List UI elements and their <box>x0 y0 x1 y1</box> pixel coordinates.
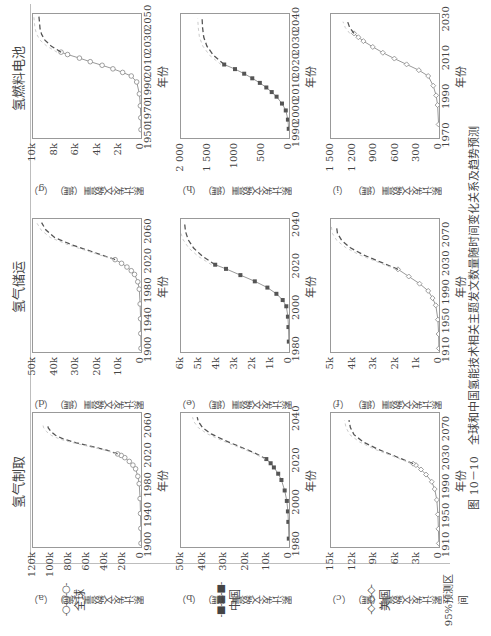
y-tick-label: 3k <box>368 357 378 393</box>
y-tick-label: 300 <box>411 143 421 179</box>
column-title-production: 氢气制取 <box>8 412 27 552</box>
y-axis-label: 累计发文数量（篇） <box>352 591 442 606</box>
x-tick-label: 2040 <box>290 208 301 240</box>
x-tick-label: 1990 <box>440 80 451 112</box>
x-tick-label: 2040 <box>290 4 301 36</box>
y-axis-label: 累计发文数量（篇） <box>54 396 144 411</box>
y-tick-label: 120k <box>27 552 37 588</box>
y-tick-label: 50k <box>175 552 185 588</box>
x-tick-label: 2060 <box>142 215 153 247</box>
x-tick-label: 1910 <box>440 528 451 560</box>
y-tick-label: 4k <box>92 143 102 179</box>
x-tick-label: 2030 <box>440 441 451 473</box>
x-tick-label: 2020 <box>142 245 153 277</box>
y-axis-label: 累计发文数量（篇） <box>202 396 292 411</box>
y-tick-label: 6k <box>70 143 80 179</box>
y-tick-label: 5k <box>325 357 335 393</box>
panel-label: （i） <box>326 182 349 197</box>
y-tick-label: 3k <box>411 552 421 588</box>
y-tick-label: 6k <box>390 552 400 588</box>
y-tick-label: 600 <box>390 143 400 179</box>
x-tick-label: 1900 <box>142 333 153 365</box>
figure-canvas: 氢气制取 氢气储运 氢燃料电池 -○-○-○- 全球 -■-■-■- 中国 -◇… <box>0 0 491 636</box>
y-axis-label: 累计发文数量（篇） <box>352 182 442 197</box>
x-tick-label: 1940 <box>142 499 153 531</box>
y-tick-label: 5k <box>193 357 203 393</box>
y-tick-label: 60k <box>81 552 91 588</box>
y-tick-label: 1k <box>411 357 421 393</box>
column-title-storage: 氢气储运 <box>8 217 27 357</box>
x-tick-label: 2000 <box>290 486 301 518</box>
y-tick-label: 40k <box>49 357 59 393</box>
y-tick-label: 100k <box>45 552 55 588</box>
plot-area <box>180 218 290 353</box>
plot-area <box>330 218 440 353</box>
x-axis-label: 年份 <box>302 257 318 317</box>
y-tick-label: 2 000 <box>175 143 185 179</box>
y-tick-label: 30k <box>218 552 228 588</box>
plot-area <box>32 13 142 139</box>
x-tick-label: 1980 <box>142 469 153 501</box>
x-tick-label: 2010 <box>440 42 451 74</box>
y-tick-label: 10k <box>261 552 271 588</box>
panel-label: （h） <box>176 182 202 197</box>
y-tick-label: 4k <box>211 357 221 393</box>
panel-label: （f） <box>326 396 350 411</box>
y-tick-label: 40k <box>197 552 207 588</box>
y-tick-label: 2k <box>113 143 123 179</box>
x-tick-label: 1900 <box>142 528 153 560</box>
x-tick-label: 1950 <box>440 499 451 531</box>
y-tick-label: 10k <box>27 143 37 179</box>
x-tick-label: 1980 <box>142 274 153 306</box>
plot-area <box>180 412 290 548</box>
y-tick-label: 15k <box>325 552 335 588</box>
plot-area <box>330 412 440 548</box>
x-tick-label: 2030 <box>440 247 451 279</box>
x-tick-label: 2020 <box>290 250 301 282</box>
y-tick-label: 2k <box>390 357 400 393</box>
y-tick-label: 20k <box>240 552 250 588</box>
y-tick-label: 20k <box>117 552 127 588</box>
plot-area <box>180 13 290 139</box>
panel-label: （a） <box>28 591 54 606</box>
x-tick-label: 1910 <box>440 333 451 365</box>
x-tick-label: 2070 <box>440 218 451 250</box>
plot-area <box>330 13 440 139</box>
y-tick-label: 20k <box>92 357 102 393</box>
x-tick-label: 1950 <box>440 305 451 337</box>
y-tick-label: 50k <box>27 357 37 393</box>
y-tick-label: 3k <box>229 357 239 393</box>
y-tick-label: 1 200 <box>347 143 357 179</box>
y-tick-label: 1 500 <box>325 143 335 179</box>
x-tick-label: 1940 <box>142 304 153 336</box>
x-tick-label: 1990 <box>440 470 451 502</box>
y-tick-label: 500 <box>256 143 266 179</box>
frame-top <box>30 4 31 564</box>
plot-area <box>32 412 142 548</box>
y-axis-label: 累计发文数量（篇） <box>54 591 144 606</box>
y-axis-label: 累计发文数量（篇） <box>352 396 442 411</box>
panel-label: （b） <box>176 591 202 606</box>
x-tick-label: 2000 <box>290 291 301 323</box>
x-tick-label: 2020 <box>290 444 301 476</box>
y-axis-label: 累计发文数量（篇） <box>202 182 292 197</box>
y-tick-label: 6k <box>175 357 185 393</box>
plot-area <box>32 218 142 353</box>
x-tick-label: 1990 <box>440 276 451 308</box>
x-tick-label: 2070 <box>440 413 451 445</box>
column-title-fuel-cell: 氢燃料电池 <box>8 8 27 148</box>
y-tick-label: 900 <box>368 143 378 179</box>
y-tick-label: 12k <box>347 552 357 588</box>
y-axis-label: 累计发文数量（篇） <box>202 591 292 606</box>
panel-label: （g） <box>28 182 54 197</box>
y-tick-label: 8k <box>49 143 59 179</box>
x-tick-label: 1970 <box>440 119 451 151</box>
y-tick-label: 1k <box>265 357 275 393</box>
x-tick-label: 2030 <box>440 3 451 35</box>
y-tick-label: 40k <box>99 552 109 588</box>
x-axis-label: 年份 <box>154 47 170 107</box>
panel-label: （c） <box>326 591 352 606</box>
panel-label: （d） <box>28 396 54 411</box>
y-tick-label: 1 500 <box>202 143 212 179</box>
y-tick-label: 1000 <box>229 143 239 179</box>
